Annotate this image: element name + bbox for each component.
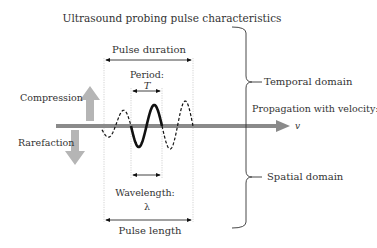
period-symbol: T: [144, 80, 152, 91]
compression-arrow-icon: [80, 86, 100, 121]
wavelength-symbol: λ: [144, 201, 150, 212]
wavelength-label: Wavelength:: [115, 187, 175, 198]
pulse-diagram: Ultrasound probing pulse characteristics…: [0, 0, 377, 248]
wave-dashed-before: [102, 110, 131, 137]
propagation-arrowhead-icon: [276, 120, 290, 132]
propagation-axis: [56, 124, 278, 128]
velocity-symbol: v: [295, 121, 300, 131]
diagram-title: Ultrasound probing pulse characteristics: [63, 12, 282, 24]
temporal-domain-label: Temporal domain: [264, 76, 353, 87]
propagation-label: Propagation with velocity:: [252, 103, 377, 114]
pulse-duration-label: Pulse duration: [112, 44, 186, 55]
pulse-length-label: Pulse length: [118, 225, 182, 236]
compression-label: Compression: [20, 92, 83, 103]
rarefaction-label: Rarefaction: [18, 137, 74, 148]
spatial-domain-label: Spatial domain: [267, 171, 344, 182]
period-label: Period:: [130, 69, 164, 80]
